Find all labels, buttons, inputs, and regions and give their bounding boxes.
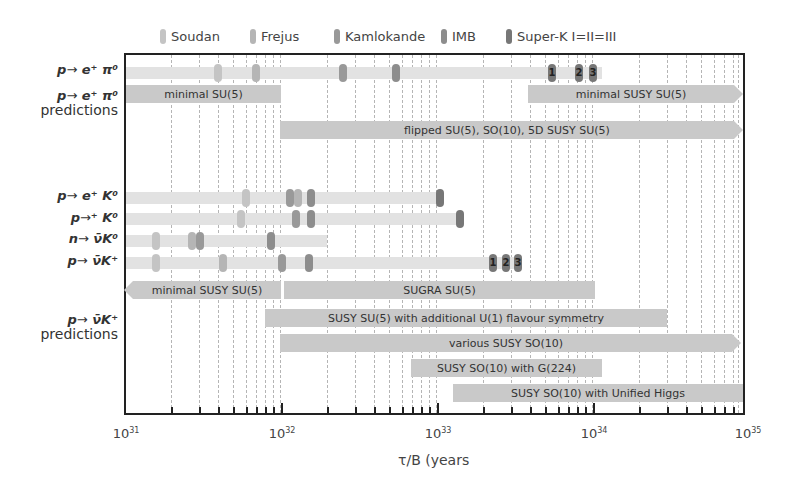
row-label-p-eK0: p→ e⁺ K⁰	[57, 188, 118, 203]
row-label-p-epi0-predictions: p→ e⁺ π⁰predictions	[40, 88, 118, 118]
marker-superk-2: 2	[502, 254, 510, 272]
marker-kamiokande	[196, 232, 204, 250]
marker-soudan	[214, 64, 222, 82]
legend: Soudan Frejus Kamlokande IMB Super-K I=I…	[0, 26, 793, 46]
soudan-swatch-icon	[160, 29, 166, 44]
bar-susy-so10-g224: SUSY SO(10) with G(224)	[411, 359, 602, 377]
marker-imb	[307, 210, 315, 228]
row-label-p-epi0: p→ e⁺ π⁰	[57, 62, 118, 77]
marker-soudan	[242, 189, 250, 207]
limit-track-p-nuK+	[126, 257, 522, 269]
bar-susy-so10-unified-higgs: SUSY SO(10) with Unified Higgs	[453, 384, 743, 402]
row-label-p-nuK+: p→ ν̄K⁺	[67, 253, 118, 268]
row-label-p-muK0: p→⁺ K⁰	[71, 210, 118, 225]
bar-flipped-su5: flipped SU(5), SO(10), 5D SUSY SU(5)	[280, 121, 734, 139]
marker-soudan	[237, 210, 245, 228]
marker-kamiokande	[339, 64, 347, 82]
bar-susy-su5-u1: SUSY SU(5) with additional U(1) flavour …	[265, 309, 667, 327]
bar-sugra-su5: SUGRA SU(5)	[284, 281, 595, 299]
marker-imb	[307, 189, 315, 207]
x-axis-label: τ/B (years	[398, 452, 469, 468]
marker-imb	[392, 64, 400, 82]
xtick-1e31: 1031	[113, 426, 140, 441]
imb-swatch-icon	[441, 29, 447, 44]
marker-superk-1: 1	[548, 64, 556, 82]
frejus-swatch-icon	[250, 29, 256, 44]
xtick-1e32: 1032	[269, 426, 296, 441]
marker-frejus	[252, 64, 260, 82]
marker-imb	[267, 232, 275, 250]
xtick-1e35: 1035	[735, 426, 762, 441]
marker-superk-3: 3	[589, 64, 597, 82]
limit-track-p-epi0	[126, 67, 602, 79]
marker-soudan	[152, 232, 160, 250]
legend-soudan: Soudan	[160, 26, 220, 46]
limit-track-p-eK0	[126, 192, 440, 204]
marker-kamiokande	[286, 189, 294, 207]
marker-kamiokande	[278, 254, 286, 272]
marker-soudan	[152, 254, 160, 272]
bar-minimal-susy-su5: minimal SUSY SU(5)	[528, 85, 734, 103]
xtick-1e33: 1033	[425, 426, 452, 441]
marker-frejus	[219, 254, 227, 272]
row-label-n-nuK0: n→ ν̄K⁰	[69, 231, 118, 246]
legend-kamiokande: Kamlokande	[334, 26, 425, 46]
kamiokande-swatch-icon	[334, 29, 340, 44]
plot-area: 1 2 3 minimal SU(5) minimal SUSY SU(5) f…	[124, 53, 745, 415]
marker-superk-3: 3	[514, 254, 522, 272]
legend-frejus: Frejus	[250, 26, 299, 46]
bar-minimal-su5: minimal SU(5)	[126, 85, 281, 103]
bar-minimal-susy-su5-nuK: minimal SUSY SU(5)	[133, 281, 281, 299]
row-label-p-nuK+-predictions: p→ ν̄K⁺predictions	[40, 312, 118, 342]
marker-frejus	[188, 232, 196, 250]
legend-superk: Super-K I=II=III	[506, 26, 616, 46]
marker-superk-2: 2	[575, 64, 583, 82]
marker-superk-1: 1	[489, 254, 497, 272]
bar-various-susy-so10: various SUSY SO(10)	[280, 334, 732, 352]
marker-superk	[436, 189, 444, 207]
marker-imb	[305, 254, 313, 272]
xtick-1e34: 1034	[581, 426, 608, 441]
superk-swatch-icon	[506, 29, 512, 44]
marker-frejus	[294, 189, 302, 207]
legend-imb: IMB	[441, 26, 476, 46]
marker-kamiokande	[292, 210, 300, 228]
marker-superk	[456, 210, 464, 228]
